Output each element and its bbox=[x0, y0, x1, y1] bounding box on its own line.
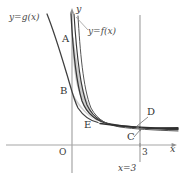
y-axis-label: y bbox=[76, 4, 81, 14]
point-label-c: C bbox=[127, 132, 135, 142]
point-label-e: E bbox=[84, 120, 91, 130]
curve-label-g: y=g(x) bbox=[9, 13, 40, 22]
x-tick-label-3: 3 bbox=[142, 148, 148, 157]
leader-line-f bbox=[76, 17, 88, 30]
math-figure: y=g(x) y=f(x) A B E C D O 3 x=3 x y bbox=[0, 0, 184, 185]
shaded-region-main bbox=[73, 38, 98, 123]
point-label-d: D bbox=[147, 107, 155, 117]
vertical-line-label: x=3 bbox=[118, 164, 136, 173]
leader-line-d bbox=[137, 117, 148, 126]
x-axis-label: x bbox=[170, 144, 175, 154]
point-label-a: A bbox=[62, 34, 69, 44]
point-label-b: B bbox=[60, 86, 67, 96]
origin-label: O bbox=[59, 148, 66, 157]
curve-label-f: y=f(x) bbox=[88, 27, 116, 36]
y-axis-arrow bbox=[70, 8, 74, 13]
